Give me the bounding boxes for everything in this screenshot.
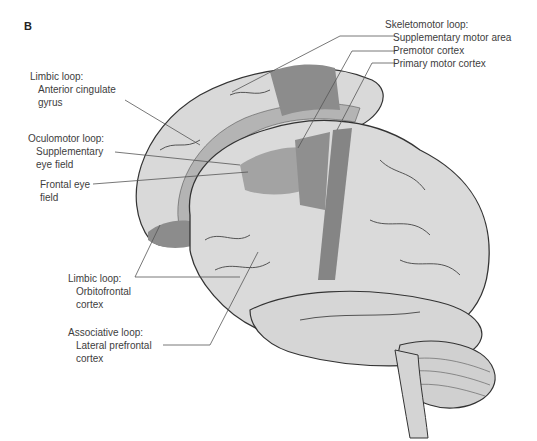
label-primary-motor-cortex: Primary motor cortex — [385, 57, 511, 70]
label-supplementary-motor-area: Supplementary motor area — [385, 31, 511, 44]
label-orbitofrontal-line2: cortex — [68, 298, 131, 311]
label-anterior-cingulate-line2: gyrus — [30, 96, 116, 109]
label-lateral-prefrontal-line2: cortex — [68, 352, 152, 365]
label-frontal-eye-field-line2: field — [40, 191, 90, 204]
label-orbitofrontal-line1: Orbitofrontal — [68, 285, 131, 298]
label-premotor-cortex: Premotor cortex — [385, 44, 511, 57]
label-associative-loop: Associative loop: Lateral prefrontal cor… — [68, 326, 152, 365]
limbic-ofc-heading: Limbic loop: — [68, 273, 121, 284]
label-oculomotor-loop: Oculomotor loop: Supplementary eye field — [28, 132, 104, 171]
label-limbic-loop-ofc: Limbic loop: Orbitofrontal cortex — [68, 272, 131, 311]
label-anterior-cingulate-line1: Anterior cingulate — [30, 83, 116, 96]
label-frontal-eye-field: Frontal eye field — [40, 178, 90, 204]
limbic-acg-heading: Limbic loop: — [30, 71, 83, 82]
label-supplementary-eye-field-line2: eye field — [28, 158, 104, 171]
label-skeletomotor-loop: Skeletomotor loop: Supplementary motor a… — [385, 18, 511, 70]
associative-heading: Associative loop: — [68, 327, 143, 338]
oculomotor-heading: Oculomotor loop: — [28, 133, 104, 144]
label-supplementary-eye-field-line1: Supplementary — [28, 145, 104, 158]
label-frontal-eye-field-line1: Frontal eye — [40, 178, 90, 191]
label-limbic-loop-acg: Limbic loop: Anterior cingulate gyrus — [30, 70, 116, 109]
label-lateral-prefrontal-line1: Lateral prefrontal — [68, 339, 152, 352]
skeletomotor-heading: Skeletomotor loop: — [385, 19, 468, 30]
